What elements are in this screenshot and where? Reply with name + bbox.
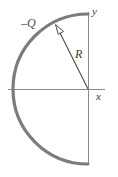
physics-figure: y x –Q R (0, 0, 118, 177)
x-axis-label: x (96, 91, 101, 102)
radius-label: R (75, 48, 82, 60)
radius-vector-line (59, 31, 88, 89)
figure-canvas (0, 0, 118, 177)
charge-label: –Q (21, 17, 36, 29)
y-axis-label: y (92, 6, 97, 17)
radius-arrowhead-icon (56, 25, 64, 35)
